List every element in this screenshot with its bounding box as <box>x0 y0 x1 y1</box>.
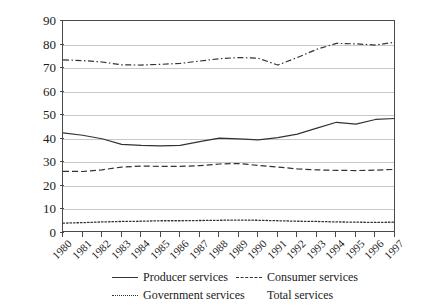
y-axis: 0102030405060708090 <box>16 20 56 232</box>
y-tick-label: 60 <box>43 84 56 97</box>
x-tick-mark <box>277 232 278 237</box>
x-tick-label: 1996 <box>363 238 386 261</box>
x-tick-label: 1980 <box>50 238 73 261</box>
line-style-dotted-icon <box>112 290 138 300</box>
series-line-consumer-services <box>63 164 395 172</box>
y-tick-mark <box>60 161 64 162</box>
x-tick-label: 1984 <box>129 238 152 261</box>
x-tick-mark <box>257 232 258 237</box>
x-tick-mark <box>394 232 395 237</box>
legend-label: Consumer services <box>267 270 358 285</box>
y-tick-label: 0 <box>50 226 57 239</box>
y-tick-mark <box>60 185 64 186</box>
x-tick-label: 1985 <box>148 238 171 261</box>
line-style-dashdot-icon <box>236 290 262 300</box>
legend-item-producer-services: Producer services <box>112 270 236 285</box>
x-tick-label: 1983 <box>109 238 132 261</box>
series-lines <box>63 21 396 233</box>
x-tick-mark <box>160 232 161 237</box>
plot-area <box>62 20 395 232</box>
legend-item-consumer-services: Consumer services <box>236 270 358 285</box>
x-tick-label: 1981 <box>70 238 93 261</box>
y-tick-mark <box>60 44 64 45</box>
y-tick-label: 50 <box>43 108 56 121</box>
x-tick-mark <box>335 232 336 237</box>
series-line-government-services <box>63 220 395 223</box>
x-tick-mark <box>179 232 180 237</box>
x-tick-label: 1986 <box>168 238 191 261</box>
legend-item-total-services: Total services <box>236 288 333 303</box>
y-tick-mark <box>60 208 64 209</box>
x-tick-mark <box>316 232 317 237</box>
x-tick-label: 1994 <box>324 238 347 261</box>
legend-label: Total services <box>267 288 333 303</box>
x-tick-label: 1982 <box>89 238 112 261</box>
legend: Producer services Consumer services Gove… <box>112 268 362 304</box>
x-tick-mark <box>218 232 219 237</box>
y-tick-label: 90 <box>43 14 56 27</box>
x-tick-mark <box>374 232 375 237</box>
legend-row: Producer services Consumer services <box>112 268 362 286</box>
line-style-dashed-icon <box>236 272 262 282</box>
x-tick-mark <box>62 232 63 237</box>
legend-label: Government services <box>143 288 245 303</box>
x-tick-mark <box>140 232 141 237</box>
series-line-producer-services <box>63 119 395 146</box>
x-tick-label: 1988 <box>207 238 230 261</box>
y-tick-mark <box>60 91 64 92</box>
chart-figure: 0102030405060708090 19801981198219831984… <box>0 0 425 308</box>
y-tick-label: 70 <box>43 61 56 74</box>
x-tick-mark <box>355 232 356 237</box>
line-style-solid-icon <box>112 272 138 282</box>
y-tick-label: 10 <box>43 202 56 215</box>
y-tick-label: 30 <box>43 155 56 168</box>
y-tick-mark <box>60 20 64 21</box>
x-tick-label: 1997 <box>382 238 405 261</box>
x-tick-label: 1990 <box>246 238 269 261</box>
legend-item-government-services: Government services <box>112 288 236 303</box>
x-tick-mark <box>82 232 83 237</box>
y-tick-mark <box>60 114 64 115</box>
x-tick-mark <box>238 232 239 237</box>
x-tick-mark <box>296 232 297 237</box>
x-tick-mark <box>199 232 200 237</box>
y-tick-mark <box>60 138 64 139</box>
x-tick-label: 1992 <box>285 238 308 261</box>
y-tick-label: 40 <box>43 131 56 144</box>
x-tick-mark <box>121 232 122 237</box>
y-tick-mark <box>60 67 64 68</box>
x-tick-mark <box>101 232 102 237</box>
series-line-total-services <box>63 42 395 65</box>
legend-row: Government services Total services <box>112 286 362 304</box>
y-tick-label: 20 <box>43 178 56 191</box>
legend-label: Producer services <box>143 270 228 285</box>
y-tick-label: 80 <box>43 37 56 50</box>
